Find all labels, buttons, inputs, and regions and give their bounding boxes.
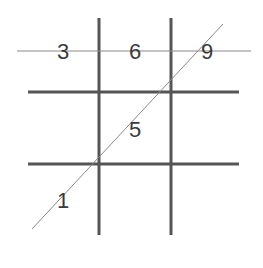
cell-digit-3: 3 (57, 39, 69, 64)
cell-digit-5: 5 (129, 117, 141, 142)
tic-tac-toe-diagram: 3 6 9 5 1 (0, 0, 263, 268)
cell-digit-6: 6 (129, 39, 141, 64)
cell-digit-9: 9 (201, 39, 213, 64)
cell-digit-1: 1 (57, 188, 69, 213)
